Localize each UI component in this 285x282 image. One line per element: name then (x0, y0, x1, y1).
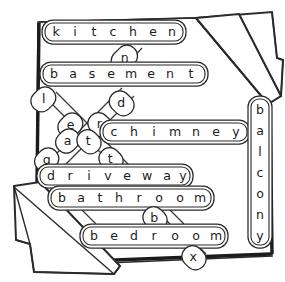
letter-balcony-0: b (256, 102, 264, 117)
letter-driveway-2: i (87, 168, 90, 183)
letter-bathroom-2: t (98, 190, 103, 205)
letter-driveway-1: r (67, 168, 73, 183)
word-bedroom[interactable]: b e d r o o m (80, 224, 228, 248)
letter-bathroom-0: b (58, 190, 66, 205)
letter-balcony-1: a (256, 123, 264, 138)
word-bathroom[interactable]: b a t h r o o m (48, 186, 214, 210)
letter-bedroom-3: r (151, 228, 157, 243)
letter-bathroom-3: h (115, 190, 123, 205)
letter-bathroom-6: o (176, 190, 184, 205)
letter-chimney-1: h (130, 124, 138, 139)
letter-balcony-2: l (258, 144, 261, 159)
letter-t-1: t (86, 133, 91, 148)
letter-basement-7: t (189, 66, 194, 81)
letter-basement-4: m (125, 66, 137, 81)
letter-basement-0: b (50, 66, 58, 81)
letter-driveway-3: v (104, 168, 112, 183)
letter-kitchen-3: c (110, 24, 117, 39)
letter-bedroom-0: b (90, 228, 98, 243)
letter-a: a (64, 133, 72, 148)
letter-kitchen-2: t (92, 24, 97, 39)
letter-chimney-4: n (192, 124, 200, 139)
letter-b: b (150, 210, 158, 225)
letter-driveway-5: w (142, 168, 152, 183)
letter-bathroom-1: a (77, 190, 85, 205)
letter-d: d (117, 95, 125, 110)
letter-bathroom-7: m (194, 190, 206, 205)
letter-chimney-2: i (152, 124, 155, 139)
letter-bedroom-2: d (130, 228, 138, 243)
letter-kitchen-5: e (149, 24, 157, 39)
letter-chimney-6: y (232, 124, 240, 139)
letter-bedroom-1: e (110, 228, 118, 243)
word-basement[interactable]: b a s e m e n t (40, 62, 208, 86)
letter-driveway-0: d (47, 168, 55, 183)
letter-chimney-5: e (212, 124, 220, 139)
letter-driveway-6: a (163, 168, 171, 183)
letter-chimney-0: c (111, 124, 118, 139)
letter-basement-6: n (166, 66, 174, 81)
letter-kitchen-1: i (73, 24, 76, 39)
letter-basement-3: e (107, 66, 115, 81)
word-chimney[interactable]: c h i m n e y (100, 120, 250, 144)
letter-balcony-3: c (257, 165, 264, 180)
letter-driveway-7: y (179, 168, 187, 183)
letter-l: l (42, 91, 45, 106)
letter-kitchen-6: n (168, 24, 176, 39)
letter-basement-2: s (89, 66, 96, 81)
word-balcony[interactable]: b a l c o n y (248, 96, 272, 248)
letter-bedroom-6: m (210, 228, 222, 243)
letter-bedroom-5: o (192, 228, 200, 243)
letter-basement-1: a (69, 66, 77, 81)
letter-balcony-5: n (256, 207, 264, 222)
letter-driveway-4: e (123, 168, 131, 183)
letter-bathroom-5: o (155, 190, 163, 205)
letter-balcony-4: o (256, 186, 264, 201)
letter-bedroom-4: o (171, 228, 179, 243)
word-driveway[interactable]: d r i v e w a y (37, 164, 193, 188)
letter-basement-5: e (147, 66, 155, 81)
puzzle-diagram: k i t c h e n n b a s e m e n t (0, 0, 285, 282)
letter-bathroom-4: r (136, 190, 142, 205)
letter-kitchen-0: k (52, 24, 60, 39)
letter-balcony-6: y (256, 228, 264, 243)
letter-chimney-3: m (169, 124, 181, 139)
word-kitchen[interactable]: k i t c h e n (42, 20, 186, 44)
letter-x: x (190, 249, 197, 264)
letter-kitchen-4: h (129, 24, 137, 39)
